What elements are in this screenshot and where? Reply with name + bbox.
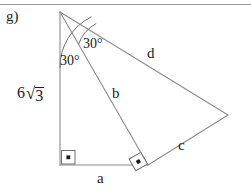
label-side-c: c bbox=[178, 138, 185, 153]
label-side-a: a bbox=[97, 171, 104, 186]
right-angle-marker-bottom-mid bbox=[129, 152, 147, 170]
label-side-b: b bbox=[112, 86, 120, 101]
right-angle-marker-bottom-left bbox=[62, 151, 76, 165]
segment-d bbox=[60, 12, 228, 115]
label-side-length: 6 √ 3 bbox=[17, 85, 44, 105]
segment-c bbox=[148, 115, 228, 165]
figure-page: g) 6 √ 3 30° 30° a b c d bbox=[0, 0, 251, 192]
part-label: g) bbox=[6, 9, 19, 24]
segment-b bbox=[60, 12, 148, 165]
label-angle-right: 30° bbox=[83, 37, 103, 51]
label-angle-left: 30° bbox=[60, 54, 80, 68]
side-length-coefficient: 6 bbox=[17, 85, 25, 101]
label-side-d: d bbox=[147, 46, 155, 61]
side-length-radicand: 3 bbox=[35, 87, 44, 105]
radical-sign-icon: √ bbox=[26, 85, 35, 102]
